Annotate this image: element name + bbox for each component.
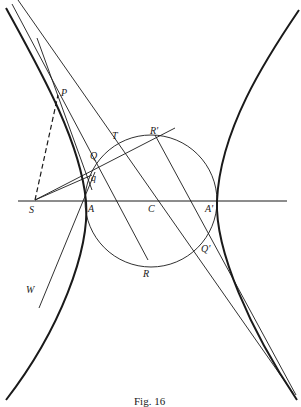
label-q: q — [91, 172, 96, 183]
label-Q-prime: Q' — [201, 243, 211, 254]
label-R-prime: R' — [149, 125, 159, 136]
hyperbola-left-branch — [6, 8, 86, 400]
label-P: P — [60, 87, 67, 98]
line-S-P — [35, 95, 58, 200]
label-C: C — [148, 203, 155, 214]
figure-caption: Fig. 16 — [134, 395, 166, 407]
label-A-prime: A' — [204, 203, 214, 214]
line-through-T — [18, 0, 293, 393]
label-Q: Q — [90, 150, 98, 161]
label-T: T — [112, 130, 119, 141]
label-R: R — [142, 268, 149, 279]
hyperbola-right-branch — [217, 10, 299, 400]
line-R-prime-Q-prime — [155, 135, 296, 395]
label-S: S — [29, 204, 34, 215]
line-P-R — [12, 4, 148, 260]
label-W: W — [26, 284, 36, 295]
tangent-at-P — [37, 38, 92, 190]
line-S-R-prime — [35, 128, 175, 200]
hyperbola-diagram: P T R' Q q S A C A' Q' R W Fig. 16 — [0, 0, 301, 407]
line-W — [39, 172, 95, 308]
label-A: A — [87, 203, 95, 214]
